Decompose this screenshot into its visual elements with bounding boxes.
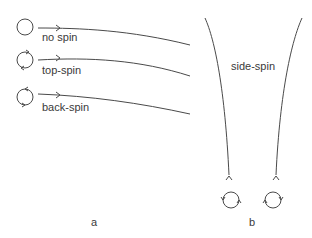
label-no-spin: no spin xyxy=(42,32,77,43)
panel-label-a: a xyxy=(91,217,97,228)
ball-side-spin-left-icon xyxy=(223,192,239,208)
arrow-icon xyxy=(226,176,232,180)
label-top-spin: top-spin xyxy=(42,65,81,76)
arrow-icon xyxy=(56,55,60,61)
side-spin-left-path xyxy=(205,18,229,175)
arrow-icon xyxy=(273,176,279,180)
trajectory-side-spin-left xyxy=(205,18,241,208)
trajectory-side-spin-right xyxy=(263,18,302,208)
panel-label-b: b xyxy=(249,217,255,228)
ball-back-spin-icon xyxy=(17,89,33,105)
ball-no-spin-icon xyxy=(17,19,33,35)
label-side-spin: side-spin xyxy=(231,61,275,72)
ball-side-spin-right-icon xyxy=(265,192,281,208)
label-back-spin: back-spin xyxy=(42,102,89,113)
ball-top-spin-icon xyxy=(17,52,33,68)
side-spin-right-path xyxy=(276,18,302,175)
